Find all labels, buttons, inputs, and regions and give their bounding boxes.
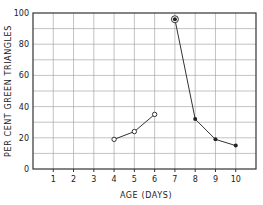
series-line [175, 19, 236, 145]
grid-lines [33, 13, 256, 169]
data-point [193, 117, 197, 121]
y-tick-label: 60 [19, 71, 29, 80]
x-tick-label: 3 [91, 175, 96, 184]
data-point [213, 137, 217, 141]
x-tick-label: 6 [152, 175, 157, 184]
x-tick-label: 9 [213, 175, 218, 184]
x-axis-ticks: 12345678910 [51, 169, 241, 184]
data-point [112, 137, 116, 141]
x-tick-label: 4 [112, 175, 117, 184]
x-tick-label: 1 [51, 175, 56, 184]
x-axis-label: AGE (DAYS) [120, 191, 172, 200]
y-axis-ticks: 020406080100 [14, 9, 29, 174]
y-axis-label: PER CENT GREEN TRIANGLES [4, 25, 13, 157]
x-tick-label: 10 [231, 175, 241, 184]
x-tick-label: 2 [71, 175, 76, 184]
y-tick-label: 100 [14, 9, 29, 18]
data-point [173, 17, 177, 21]
y-tick-label: 80 [19, 40, 29, 49]
x-tick-label: 5 [132, 175, 137, 184]
data-point [132, 129, 136, 133]
data-point [234, 144, 238, 148]
line-chart: 12345678910 020406080100 AGE (DAYS) PER … [0, 0, 263, 205]
x-tick-label: 8 [193, 175, 198, 184]
y-tick-label: 0 [24, 165, 29, 174]
y-tick-label: 20 [19, 134, 29, 143]
y-tick-label: 40 [19, 103, 29, 112]
data-point [152, 112, 156, 116]
x-tick-label: 7 [172, 175, 177, 184]
